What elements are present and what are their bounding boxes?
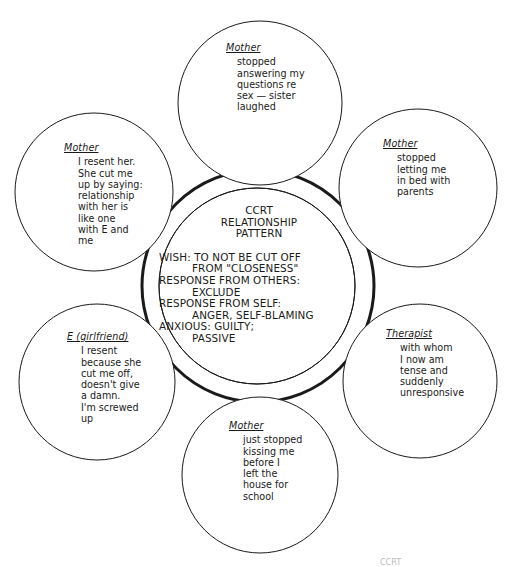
episode-text: just stopped kissing me before I left th… xyxy=(229,434,302,502)
ccrt-pattern: CCRT RELATIONSHIP PATTERN WISH: TO NOT B… xyxy=(159,205,359,345)
episode-upper-right: Mother stopped letting me in bed with pa… xyxy=(383,138,450,197)
episode-person: Mother xyxy=(383,138,450,149)
episode-lower-left: E (girlfriend) I resent because she cut … xyxy=(67,331,141,424)
episode-upper-left: Mother I resent her. She cut me up by sa… xyxy=(64,142,143,247)
episode-bottom: Mother just stopped kissing me before I … xyxy=(229,420,302,502)
pattern-line: RESPONSE FROM OTHERS: xyxy=(159,275,359,287)
episode-person: Mother xyxy=(229,420,302,431)
episode-person: Therapist xyxy=(386,328,464,339)
episode-lower-right: Therapist with whom I now am tense and s… xyxy=(386,328,464,399)
pattern-line: RESPONSE FROM SELF: xyxy=(159,298,359,310)
episode-text: I resent because she cut me off, doesn't… xyxy=(67,345,141,424)
episode-text: I resent her. She cut me up by saying: r… xyxy=(64,156,143,246)
episode-text: stopped answering my questions re sex — … xyxy=(226,56,305,112)
caption-text: CCRT xyxy=(380,558,401,567)
pattern-line: PASSIVE xyxy=(159,333,359,345)
episode-person: Mother xyxy=(64,142,143,153)
episode-text: stopped letting me in bed with parents xyxy=(383,152,450,197)
figure-caption-fragment: CCRT xyxy=(380,558,401,567)
episode-text: with whom I now am tense and suddenly un… xyxy=(386,342,464,398)
episode-person: Mother xyxy=(226,42,305,53)
ccrt-title: CCRT RELATIONSHIP PATTERN xyxy=(159,205,359,240)
episode-top: Mother stopped answering my questions re… xyxy=(226,42,305,113)
pattern-line: ANXIOUS: GUILTY; xyxy=(159,321,359,333)
episode-person: E (girlfriend) xyxy=(67,331,141,342)
